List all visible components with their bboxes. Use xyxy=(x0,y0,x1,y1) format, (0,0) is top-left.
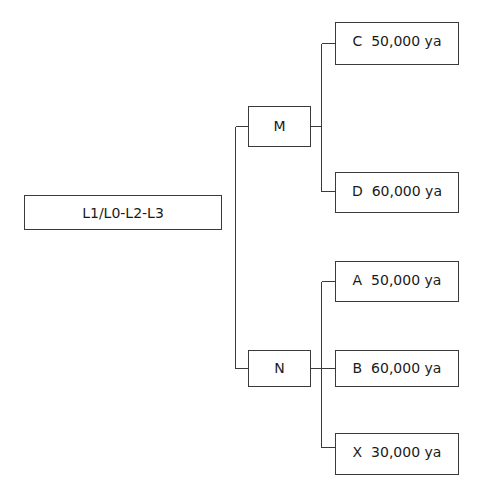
leaf-node-x: X 30,000 ya xyxy=(335,433,459,475)
leaf-node-d: D 60,000 ya xyxy=(335,172,459,213)
branch-node-n-label: N xyxy=(274,361,284,386)
root-node-label: L1/L0-L2-L3 xyxy=(82,206,164,229)
root-node: L1/L0-L2-L3 xyxy=(24,195,222,230)
connector-lines xyxy=(0,0,484,501)
leaf-node-b: B 60,000 ya xyxy=(335,350,459,387)
leaf-node-x-label: X 30,000 ya xyxy=(353,445,442,474)
branch-node-m: M xyxy=(248,106,311,147)
leaf-node-c-label: C 50,000 ya xyxy=(353,34,442,64)
branch-node-m-label: M xyxy=(273,119,285,146)
branch-node-n: N xyxy=(248,350,311,387)
leaf-node-d-label: D 60,000 ya xyxy=(352,184,442,212)
leaf-node-b-label: B 60,000 ya xyxy=(353,361,442,386)
leaf-node-c: C 50,000 ya xyxy=(335,22,459,65)
leaf-node-a-label: A 50,000 ya xyxy=(353,273,442,301)
leaf-node-a: A 50,000 ya xyxy=(335,261,459,302)
